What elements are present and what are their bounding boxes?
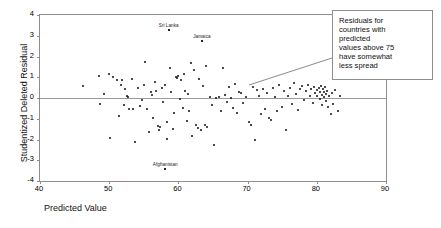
data-point — [139, 105, 141, 107]
data-point — [179, 98, 181, 100]
x-axis-tick — [40, 181, 41, 184]
data-point — [158, 129, 160, 131]
data-point — [209, 96, 211, 98]
data-point — [295, 93, 297, 95]
x-axis-tick — [178, 181, 179, 184]
point-label: Afghanistan — [153, 162, 178, 167]
data-point — [193, 69, 195, 71]
data-point — [186, 120, 188, 122]
data-point — [337, 110, 339, 112]
data-point — [123, 104, 125, 106]
x-axis-tick — [248, 181, 249, 184]
data-point — [272, 87, 274, 89]
data-point — [234, 83, 236, 85]
data-point — [326, 90, 328, 92]
data-point — [131, 78, 133, 80]
data-point — [325, 93, 327, 95]
data-point — [154, 81, 156, 83]
data-point — [121, 79, 123, 81]
data-point — [124, 88, 126, 90]
data-point — [127, 96, 129, 98]
point-label: Sri Lanka — [159, 23, 179, 28]
data-point — [303, 99, 305, 101]
data-point — [177, 75, 179, 77]
data-point — [164, 84, 166, 86]
data-point — [236, 112, 238, 114]
data-point-labelled — [164, 168, 166, 170]
data-point — [258, 95, 260, 97]
data-point — [159, 126, 161, 128]
data-point — [120, 84, 122, 86]
data-point — [323, 96, 325, 98]
data-point — [264, 108, 266, 110]
data-point — [305, 90, 307, 92]
data-point — [291, 103, 293, 105]
data-point — [250, 124, 252, 126]
data-point — [307, 84, 309, 86]
x-axis-tick — [386, 181, 387, 184]
data-point — [195, 124, 197, 126]
data-point — [319, 98, 321, 100]
data-point — [112, 76, 114, 78]
data-point — [226, 101, 228, 103]
data-point — [327, 106, 329, 108]
scatter-plot-figure: 43210-1-2-3-4405060708090 Studentized De… — [0, 0, 441, 228]
data-point — [141, 99, 143, 101]
data-point — [322, 88, 324, 90]
data-point — [283, 90, 285, 92]
data-point — [116, 79, 118, 81]
data-point — [191, 135, 193, 137]
data-point — [190, 62, 192, 64]
annotation-callout: Residuals for countries with predicted v… — [332, 10, 433, 80]
data-point — [321, 104, 323, 106]
data-point — [205, 65, 207, 67]
data-point — [301, 85, 303, 87]
annotation-line-2: countries with — [339, 25, 385, 34]
data-point — [240, 92, 242, 94]
data-point — [108, 73, 110, 75]
zero-reference-line — [40, 98, 386, 99]
data-point — [173, 112, 175, 114]
x-axis-tick-label: 40 — [35, 185, 43, 193]
data-point — [109, 137, 111, 139]
data-point — [325, 100, 327, 102]
data-point — [222, 67, 224, 69]
data-point — [166, 121, 168, 123]
data-point — [339, 95, 341, 97]
y-axis-tick — [37, 160, 40, 161]
data-point — [316, 95, 318, 97]
data-point — [331, 92, 333, 94]
x-axis-tick — [109, 181, 110, 184]
data-point — [161, 87, 163, 89]
data-point — [180, 79, 182, 81]
data-point — [334, 89, 336, 91]
data-point — [151, 94, 153, 96]
data-point — [150, 91, 152, 93]
data-point — [188, 110, 190, 112]
y-axis-tick-label: 4 — [20, 10, 34, 18]
x-axis-tick-label: 80 — [312, 185, 320, 193]
data-point — [134, 141, 136, 143]
x-axis-tick-label: 50 — [104, 185, 112, 193]
data-point — [285, 129, 287, 131]
data-point — [169, 67, 171, 69]
data-point — [143, 84, 145, 86]
data-point — [128, 108, 130, 110]
data-point — [332, 103, 334, 105]
data-point — [228, 86, 230, 88]
data-point — [98, 75, 100, 77]
data-point — [313, 86, 315, 88]
data-point — [198, 78, 200, 80]
x-axis-tick-label: 90 — [381, 185, 389, 193]
data-point — [170, 91, 172, 93]
data-point — [99, 103, 101, 105]
data-point — [266, 92, 268, 94]
data-point — [184, 90, 186, 92]
x-axis-tick — [317, 181, 318, 184]
data-point — [162, 101, 164, 103]
data-point — [144, 61, 146, 63]
data-point-labelled — [201, 40, 203, 42]
x-axis-tick-label: 70 — [242, 185, 250, 193]
x-axis-tick-label: 60 — [173, 185, 181, 193]
data-point-labelled — [168, 29, 170, 31]
